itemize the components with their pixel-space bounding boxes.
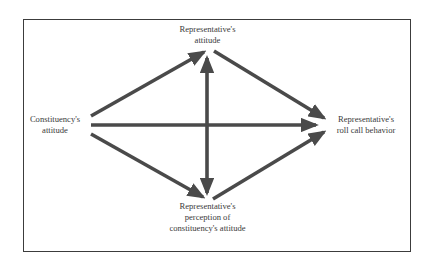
node-label-line: attitude [160,35,255,46]
node-representatives-perception: Representative's perception of constitue… [150,201,265,234]
node-representatives-attitude: Representative's attitude [160,24,255,46]
node-label-line: attitude [14,125,96,136]
node-label-line: constituency's attitude [150,223,265,234]
node-label-line: Representative's [150,201,265,212]
arrow-rep-attitude-to-roll-call [214,51,324,118]
node-label-line: Constituency's [14,114,96,125]
node-label-line: perception of [150,212,265,223]
arrow-constituency-to-rep-attitude [91,52,204,116]
node-label-line: Representative's [160,24,255,35]
node-label-line: Representative's [318,114,414,125]
node-label-line: roll call behavior [318,125,414,136]
arrow-constituency-to-perception [91,134,203,197]
arrow-perception-to-roll-call [213,132,324,199]
node-constituencys-attitude: Constituency's attitude [14,114,96,136]
node-roll-call-behavior: Representative's roll call behavior [318,114,414,136]
